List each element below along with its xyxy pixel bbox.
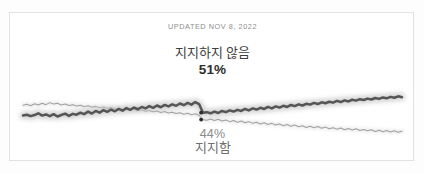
series-support-group: [23, 103, 402, 133]
approval-trend-chart[interactable]: [10, 13, 414, 161]
crossover-marker-1: [199, 118, 203, 122]
series-support-glow: [23, 103, 402, 133]
poll-chart-card: UPDATED NOV 8, 2022: [9, 12, 414, 161]
crossover-marker-0: [199, 111, 203, 115]
chart-svg: [10, 13, 414, 161]
screenshot-root: UPDATED NOV 8, 2022: [0, 0, 424, 173]
